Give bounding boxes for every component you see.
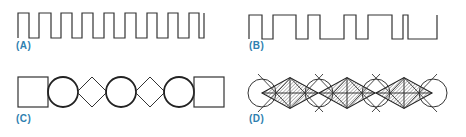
circle-shape (106, 77, 136, 107)
label-c: (C) (16, 113, 31, 124)
waveform-b (249, 15, 437, 39)
label-d: (D) (249, 113, 264, 124)
label-a: (A) (16, 40, 31, 51)
waveform-a (18, 13, 204, 38)
circle-shape (164, 77, 194, 107)
square-shape (18, 77, 48, 107)
square-shape (194, 77, 224, 107)
circle-shape (48, 77, 78, 107)
diamond-shape (77, 77, 107, 107)
diamond-shape (135, 77, 165, 107)
shape-chain-c (18, 77, 224, 107)
label-b: (B) (249, 40, 264, 51)
hatched-chain-d (248, 74, 447, 112)
figure-canvas (0, 0, 466, 137)
